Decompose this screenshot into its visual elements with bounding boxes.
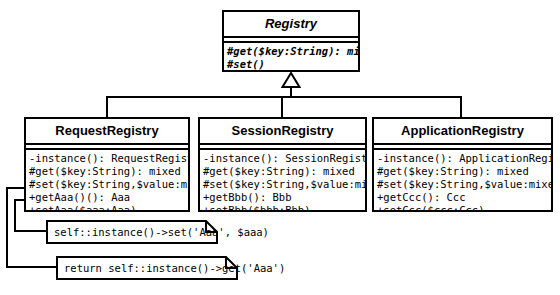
generalization-riser-session [281, 96, 283, 118]
class-operations-registry: #get($key:String): mixed #set() [224, 43, 358, 70]
class-title-session-registry: SessionRegistry [200, 119, 365, 145]
class-operations-request-registry: -instance(): RequestRegistry #get($key:S… [26, 150, 188, 210]
class-box-session-registry[interactable]: SessionRegistry -instance(): SessionRegi… [198, 117, 367, 212]
uml-class-diagram: Registry #get($key:String): mixed #set()… [0, 0, 560, 295]
operation-item: +getCcc(): Ccc [377, 191, 548, 204]
operation-item: +setAaa($aaa:Aaa) [29, 204, 185, 210]
class-title-application-registry: ApplicationRegistry [374, 119, 551, 145]
operation-item: #get($key:String): mixed [227, 45, 355, 58]
note-connector-1-vertical [14, 199, 16, 232]
note-connector-2-lead [6, 266, 58, 268]
operation-item: #get($key:String): mixed [29, 165, 185, 178]
operation-item: #set($key:String,$value:mixed) [203, 178, 362, 191]
generalization-riser-application [460, 96, 462, 118]
operation-item: -instance(): SessionRegistry [203, 152, 362, 165]
class-box-registry[interactable]: Registry #get($key:String): mixed #set() [222, 10, 360, 72]
generalization-riser-request [106, 96, 108, 118]
note-connector-2-vertical [6, 187, 8, 268]
note-get-aaa-text: return self::instance()->get('Aaa') [64, 262, 285, 274]
operation-item: #set($key:String,$value:mixed) [29, 178, 185, 191]
operation-item: +setCcc($ccc:Ccc) [377, 204, 548, 210]
class-box-request-registry[interactable]: RequestRegistry -instance(): RequestRegi… [24, 117, 190, 212]
note-connector-1-lead [14, 230, 48, 232]
operation-item: -instance(): RequestRegistry [29, 152, 185, 165]
class-box-application-registry[interactable]: ApplicationRegistry -instance(): Applica… [372, 117, 553, 212]
operation-item: #set($key:String,$value:mixed) [377, 178, 548, 191]
operation-item: +setBbb($bbb:Bbb) [203, 204, 362, 210]
operation-item: #get($key:String): mixed [203, 165, 362, 178]
operation-item: +getAaa()(): Aaa [29, 191, 185, 204]
operation-item: -instance(): ApplicationRegistry [377, 152, 548, 165]
operation-item: #get($key:String): mixed [377, 165, 548, 178]
class-title-registry: Registry [224, 12, 358, 38]
class-operations-session-registry: -instance(): SessionRegistry #get($key:S… [200, 150, 365, 210]
class-operations-application-registry: -instance(): ApplicationRegistry #get($k… [374, 150, 551, 210]
class-title-request-registry: RequestRegistry [26, 119, 188, 145]
generalization-bus [106, 96, 462, 98]
note-connector-2-stub [6, 187, 26, 189]
note-get-aaa[interactable]: return self::instance()->get('Aaa') [56, 256, 238, 280]
note-set-aaa[interactable]: self::instance()->set('Aaa', $aaa) [46, 220, 218, 244]
operation-item: #set() [227, 58, 355, 70]
note-set-aaa-text: self::instance()->set('Aaa', $aaa) [54, 226, 269, 238]
operation-item: +getBbb(): Bbb [203, 191, 362, 204]
